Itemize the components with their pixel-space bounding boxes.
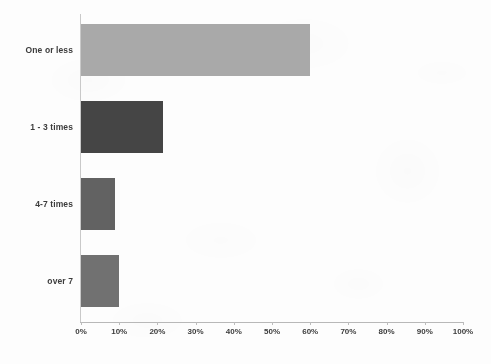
x-axis-tick-label: 50%: [264, 327, 280, 336]
x-axis-tick-label: 0%: [75, 327, 87, 336]
y-axis-label-2: 4-7 times: [35, 199, 73, 209]
x-axis-tick-mark: [234, 322, 235, 325]
x-axis-tick-mark: [387, 322, 388, 325]
x-axis-tick-mark: [119, 322, 120, 325]
x-axis-tick-mark: [348, 322, 349, 325]
bar-over-7[interactable]: [81, 255, 119, 307]
x-axis-tick-mark: [310, 322, 311, 325]
bar-1-3-times[interactable]: [81, 101, 163, 153]
y-axis-label-0: One or less: [26, 45, 73, 55]
y-axis-label-1: 1 - 3 times: [30, 122, 73, 132]
x-axis-tick-mark: [463, 322, 464, 325]
x-axis-tick-label: 60%: [302, 327, 318, 336]
plot-area: 0%10%20%30%40%50%60%70%80%90%100%: [81, 14, 463, 322]
bar-one-or-less[interactable]: [81, 24, 310, 76]
x-axis-tick-label: 10%: [111, 327, 127, 336]
x-axis-tick-label: 70%: [340, 327, 356, 336]
x-axis-tick-label: 20%: [149, 327, 165, 336]
x-axis-tick-mark: [425, 322, 426, 325]
y-axis-label-3: over 7: [47, 276, 73, 286]
bar-chart: One or less 1 - 3 times 4-7 times over 7…: [0, 0, 491, 364]
x-axis-tick-label: 40%: [226, 327, 242, 336]
x-axis-tick-label: 90%: [417, 327, 433, 336]
x-axis-tick-mark: [196, 322, 197, 325]
x-axis-tick-label: 80%: [379, 327, 395, 336]
x-axis-tick-mark: [81, 322, 82, 325]
bar-4-7-times[interactable]: [81, 178, 115, 230]
x-axis-tick-label: 100%: [453, 327, 473, 336]
x-axis-tick-mark: [272, 322, 273, 325]
x-axis-tick-label: 30%: [188, 327, 204, 336]
y-axis-category-labels: One or less 1 - 3 times 4-7 times over 7: [0, 14, 73, 322]
x-axis-tick-mark: [157, 322, 158, 325]
